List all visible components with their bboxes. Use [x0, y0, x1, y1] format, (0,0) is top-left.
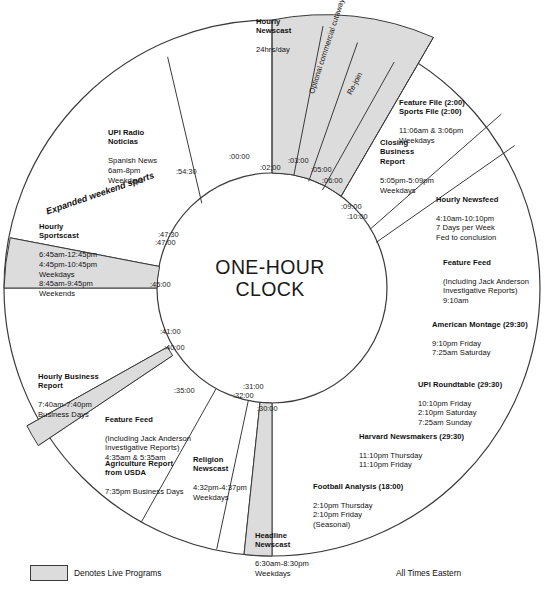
program-heading-feature-file-sports-file: Feature File (2:00) Sports File (2:00) — [399, 98, 465, 117]
tick-label-05-00: :05:00 — [311, 166, 332, 174]
program-body-headline-newscast: 6:30am-8:30pm Weekdays — [255, 559, 309, 578]
tick-label-35-00: :35:00 — [174, 387, 195, 395]
tick-label-54-30: :54:30 — [176, 168, 197, 176]
program-label-upi-radio-noticias: UPI Radio Noticias Spanish News 6am-8pm … — [108, 118, 157, 195]
page-title: ONE-HOUR CLOCK — [175, 256, 365, 300]
program-heading-harvard-newsmakers: Harvard Newsmakers (29:30) — [359, 432, 464, 442]
program-body-upi-radio-noticias: Spanish News 6am-8pm Weekdays — [108, 156, 157, 185]
program-body-feature-feed-early: (Including Jack Anderson Investigative R… — [105, 434, 191, 463]
program-label-hourly-newscast: Hourly Newscast 24hrs/day — [256, 7, 291, 65]
program-label-headline-newscast: Headline Newscast 6:30am-8:30pm Weekdays — [255, 521, 309, 588]
one-hour-clock-diagram: ONE-HOUR CLOCK :00:00 :02:00 :03:00 :05:… — [0, 0, 545, 593]
tick-label-41-00: :41:00 — [160, 328, 181, 336]
program-label-religion-newscast: Religion Newscast 4:32pm-4:37pm Weekdays — [193, 445, 247, 512]
program-label-american-montage: American Montage (29:30) 9:10pm Friday 7… — [432, 310, 528, 368]
program-heading-religion-newscast: Religion Newscast — [193, 455, 247, 474]
tick-label-30-00: :30:00 — [257, 405, 278, 413]
tick-label-00-00: :00:00 — [229, 153, 250, 161]
program-heading-hourly-business-report: Hourly Business Report — [38, 372, 99, 391]
page-title-line-2: CLOCK — [175, 278, 365, 300]
program-label-harvard-newsmakers: Harvard Newsmakers (29:30) 11:10pm Thurs… — [359, 422, 464, 480]
program-label-feature-feed-morning: Feature Feed (Including Jack Anderson In… — [443, 248, 529, 315]
legend-live-label: Denotes Live Programs — [74, 568, 162, 578]
program-heading-upi-roundtable: UPI Roundtable (29:30) — [418, 380, 502, 390]
program-label-football-analysis: Football Analysis (18:00) 2:10pm Thursda… — [313, 472, 403, 539]
program-body-closing-business-report: 5:05pm-5:09pm Weekdays — [380, 176, 434, 195]
program-label-closing-business-report: Closing Business Report 5:05pm-5:09pm We… — [380, 128, 434, 205]
spoke-54-30 — [168, 57, 202, 203]
tick-label-47-00: :47:00 — [155, 239, 176, 247]
program-label-hourly-sportscast: Hourly Sportscast 6:45am-12:45pm 4:45pm-… — [39, 212, 97, 308]
program-label-feature-feed-early: Feature Feed (Including Jack Anderson In… — [105, 405, 191, 472]
program-body-feature-feed-morning: (Including Jack Anderson Investigative R… — [443, 277, 529, 306]
program-body-hourly-newscast: 24hrs/day — [256, 45, 291, 55]
tick-label-02-00: :02:00 — [260, 164, 281, 172]
program-heading-hourly-newscast: Hourly Newscast — [256, 17, 291, 36]
program-body-hourly-sportscast: 6:45am-12:45pm 4:45pm-10:45pm Weekdays 8… — [39, 250, 97, 298]
tick-label-03-00: :03:00 — [288, 157, 309, 165]
program-heading-headline-newscast: Headline Newscast — [255, 531, 309, 550]
program-body-american-montage: 9:10pm Friday 7:25am Saturday — [432, 339, 528, 358]
program-body-football-analysis: 2:10pm Thursday 2:10pm Friday (Seasonal) — [313, 501, 403, 530]
program-heading-feature-feed-early: Feature Feed — [105, 415, 191, 425]
tick-label-40-00: :40:00 — [164, 344, 185, 352]
program-heading-hourly-newsfeed: Hourly Newsfeed — [436, 195, 498, 205]
program-heading-football-analysis: Football Analysis (18:00) — [313, 482, 403, 492]
tick-label-09-00: :09:00 — [341, 203, 362, 211]
program-heading-hourly-sportscast: Hourly Sportscast — [39, 222, 97, 241]
program-body-harvard-newsmakers: 11:10pm Thursday 11:10pm Friday — [359, 451, 464, 470]
tick-label-10-00: :10:00 — [347, 213, 368, 221]
program-body-agriculture-report: 7:35pm Business Days — [105, 487, 184, 497]
tick-label-06-00: :06:00 — [322, 177, 343, 185]
legend-live-swatch — [30, 565, 68, 581]
program-body-hourly-business-report: 7:40am-7:40pm Business Days — [38, 400, 99, 419]
program-heading-feature-feed-morning: Feature Feed — [443, 258, 529, 268]
program-heading-american-montage: American Montage (29:30) — [432, 320, 528, 330]
program-heading-upi-radio-noticias: UPI Radio Noticias — [108, 128, 157, 147]
footer-all-times-eastern: All Times Eastern — [396, 568, 461, 578]
tick-label-45-00: :45:00 — [150, 281, 171, 289]
page-title-line-1: ONE-HOUR — [175, 256, 365, 278]
program-heading-closing-business-report: Closing Business Report — [380, 138, 434, 167]
program-body-religion-newscast: 4:32pm-4:37pm Weekdays — [193, 483, 247, 502]
tick-label-32-00: :32:00 — [233, 392, 254, 400]
program-body-hourly-newsfeed: 4:10am-10:10pm 7 Days per Week Fed to co… — [436, 214, 498, 243]
program-label-hourly-newsfeed: Hourly Newsfeed 4:10am-10:10pm 7 Days pe… — [436, 185, 498, 252]
tick-label-47-30: :47:30 — [158, 231, 179, 239]
program-label-hourly-business-report: Hourly Business Report 7:40am-7:40pm Bus… — [38, 362, 99, 429]
